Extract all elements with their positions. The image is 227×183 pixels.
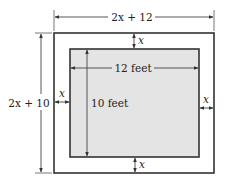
outer-width-dimension: 2x + 12 xyxy=(54,10,214,31)
outer-width-label: 2x + 12 xyxy=(111,11,152,23)
outer-height-dimension: 2x + 10 xyxy=(8,33,52,173)
inner-height-label: 10 feet xyxy=(91,97,129,109)
outer-height-label: 2x + 10 xyxy=(8,97,49,109)
inner-width-label: 12 feet xyxy=(114,62,152,74)
border-bottom-label: x xyxy=(139,158,145,170)
room-rug-diagram: 2x + 12 2x + 10 12 feet 10 feet x x x x xyxy=(0,0,227,183)
border-right-label: x xyxy=(203,93,209,105)
border-top-label: x xyxy=(138,34,144,46)
border-left-label: x xyxy=(59,87,65,99)
